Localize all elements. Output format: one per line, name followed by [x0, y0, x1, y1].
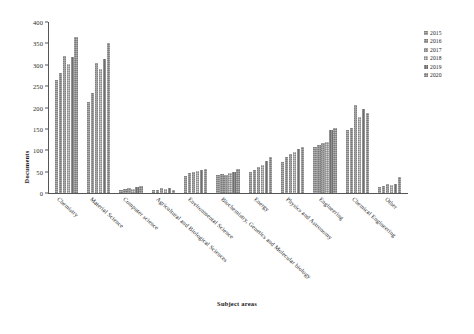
legend-swatch-icon	[424, 73, 428, 77]
x-tick-label: Chemistry	[56, 196, 80, 218]
bar	[99, 69, 102, 193]
legend-item-2017: 2017	[424, 47, 442, 53]
bar	[156, 190, 159, 193]
bar	[87, 102, 90, 193]
bar	[285, 157, 288, 193]
bar	[390, 185, 393, 193]
legend-item-2020: 2020	[424, 72, 442, 78]
bar	[107, 43, 110, 193]
bar	[261, 165, 264, 193]
bar-group	[374, 22, 406, 193]
legend-item-2018: 2018	[424, 55, 442, 61]
bar-group	[179, 22, 211, 193]
bar-groups	[48, 22, 408, 193]
bar	[184, 176, 187, 193]
bar	[139, 186, 142, 193]
bar	[329, 130, 332, 193]
legend-label: 2015	[430, 30, 442, 36]
bar	[119, 190, 122, 193]
bar	[168, 188, 171, 193]
bar	[297, 149, 300, 193]
bar	[289, 154, 292, 193]
bar	[313, 147, 316, 193]
x-tick-label: Computer science	[122, 196, 160, 231]
bar	[281, 162, 284, 193]
bar	[382, 186, 385, 193]
bar	[321, 143, 324, 193]
bar	[269, 157, 272, 193]
bar-group	[147, 22, 179, 193]
legend-label: 2018	[430, 55, 442, 61]
bar-group	[212, 22, 244, 193]
legend-swatch-icon	[424, 65, 428, 69]
legend: 201520162017201820192020	[424, 30, 442, 78]
bar	[398, 177, 401, 193]
plot-area: 050100150200250300350400	[48, 22, 408, 193]
legend-item-2019: 2019	[424, 64, 442, 70]
bar	[71, 57, 74, 193]
legend-item-2015: 2015	[424, 30, 442, 36]
x-axis-title: Subject areas	[0, 300, 474, 307]
bar	[200, 170, 203, 193]
bar	[135, 187, 138, 193]
bar	[192, 172, 195, 193]
bar-group	[50, 22, 82, 193]
legend-item-2016: 2016	[424, 38, 442, 44]
bar-group	[82, 22, 114, 193]
bar-group	[277, 22, 309, 193]
bar	[152, 190, 155, 193]
bar	[386, 184, 389, 193]
bar	[293, 152, 296, 193]
x-tick-label: Energy	[253, 196, 270, 213]
bar	[366, 113, 369, 193]
bar	[232, 172, 235, 193]
x-tick-label: Engineering	[318, 196, 345, 221]
bar	[160, 188, 163, 193]
bar	[103, 59, 106, 193]
bar	[204, 169, 207, 193]
bar	[317, 145, 320, 193]
x-tick-label: Other	[384, 196, 399, 210]
bar-group	[115, 22, 147, 193]
bar	[59, 73, 62, 193]
bar	[350, 128, 353, 193]
bar	[378, 187, 381, 193]
bar-chart: Documents 050100150200250300350400 Chemi…	[0, 0, 474, 334]
legend-label: 2017	[430, 47, 442, 53]
bar	[63, 56, 66, 193]
bar	[131, 189, 134, 193]
legend-swatch-icon	[424, 48, 428, 52]
bar	[228, 173, 231, 193]
bar	[253, 170, 256, 194]
x-tick-label: Material Science	[89, 196, 125, 229]
bar	[249, 172, 252, 193]
x-tick-label: Agricultural and Biological Sciences	[155, 196, 229, 263]
legend-swatch-icon	[424, 39, 428, 43]
x-axis-labels: ChemistryMaterial ScienceComputer scienc…	[48, 196, 408, 296]
bar	[394, 184, 397, 193]
bar	[265, 161, 268, 193]
bar	[220, 174, 223, 193]
bar	[172, 190, 175, 193]
bar	[55, 80, 58, 193]
bar	[188, 173, 191, 193]
bar	[74, 37, 77, 193]
bar	[333, 128, 336, 193]
bar-group	[244, 22, 276, 193]
legend-label: 2016	[430, 38, 442, 44]
bar	[354, 105, 357, 193]
legend-label: 2019	[430, 64, 442, 70]
bar	[301, 147, 304, 193]
x-axis-line	[48, 193, 408, 194]
bar	[346, 130, 349, 193]
bar	[123, 189, 126, 193]
bar	[236, 169, 239, 193]
bar-group	[341, 22, 373, 193]
bar	[362, 109, 365, 193]
y-axis-title: Documents	[23, 151, 30, 184]
bar	[95, 63, 98, 193]
legend-swatch-icon	[424, 31, 428, 35]
bar	[216, 175, 219, 193]
bar	[325, 142, 328, 193]
bar	[196, 171, 199, 193]
